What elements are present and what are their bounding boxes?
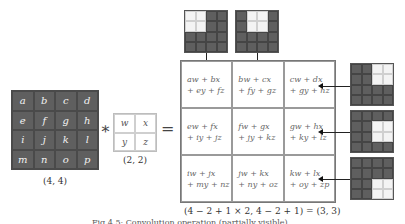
input-cell: b (34, 91, 56, 111)
output-cell: jw + kx+ ny + oz (232, 155, 283, 202)
input-cell: d (77, 91, 99, 111)
input-cell: p (77, 150, 99, 170)
kernel-cell: y (114, 133, 135, 152)
kernel-shape-label: (2, 2) (113, 155, 157, 165)
arrow-left-icon (322, 86, 350, 87)
output-cell: iw + jx+ my + nz (181, 155, 232, 202)
input-cell: f (34, 111, 56, 131)
output-matrix-3x3: aw + bx+ ey + fz bw + cx+ fy + gz cw + d… (180, 60, 336, 203)
output-cell: cw + dx+ gy + hz (284, 61, 335, 108)
receptive-field-grid-right-2 (350, 110, 394, 153)
input-cell: g (55, 111, 77, 131)
input-matrix-4x4: a b c d e f g h i j k l m n o p (11, 90, 99, 170)
kernel-cell: z (135, 133, 156, 152)
output-cell: ew + fx+ iy + jz (181, 108, 232, 155)
receptive-field-grid-right-3 (350, 157, 394, 200)
convolve-operator: ∗ (100, 119, 111, 138)
input-cell: c (55, 91, 77, 111)
input-cell: k (55, 130, 77, 150)
figure-caption: Fig 4.5: Convolution operation (partiall… (92, 218, 288, 224)
kernel-cell: w (114, 114, 135, 133)
output-shape-formula: (4 − 2 + 1 × 2, 4 − 2 + 1) = (3, 3) (184, 206, 341, 216)
kernel-matrix-2x2: w x y z (113, 113, 157, 152)
input-cell: a (12, 91, 34, 111)
input-cell: e (12, 111, 34, 131)
input-cell: o (55, 150, 77, 170)
input-shape-label: (4, 4) (11, 176, 99, 186)
output-cell: bw + cx+ fy + gz (232, 61, 283, 108)
input-cell: i (12, 130, 34, 150)
input-cell: n (34, 150, 56, 170)
arrow-left-icon (322, 132, 350, 133)
receptive-field-grid-top-1 (184, 10, 228, 53)
input-cell: j (34, 130, 56, 150)
receptive-field-grid-top-2 (235, 10, 279, 53)
input-cell: m (12, 150, 34, 170)
kernel-cell: x (135, 114, 156, 133)
equals-operator: = (161, 119, 174, 138)
arrow-left-icon (322, 179, 350, 180)
output-cell: fw + gx+ jy + kz (232, 108, 283, 155)
receptive-field-grid-right-1 (350, 63, 394, 106)
input-cell: h (77, 111, 99, 131)
input-cell: l (77, 130, 99, 150)
output-cell: aw + bx+ ey + fz (181, 61, 232, 108)
